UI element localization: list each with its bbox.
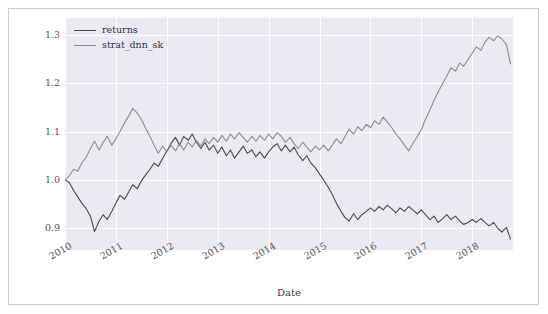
x-axis-ticks: 201020112012201320142015201620172018: [65, 250, 513, 292]
y-tick-label: 0.9: [12, 223, 60, 233]
series-line-strat_dnn_sk: [65, 36, 510, 180]
x-axis-label: Date: [65, 287, 513, 298]
legend-label: returns: [102, 24, 138, 36]
y-tick-label: 1.3: [12, 30, 60, 40]
legend-swatch-icon: [74, 45, 96, 46]
series-line-returns: [65, 134, 510, 239]
legend-label: strat_dnn_sk: [102, 39, 163, 51]
legend-item-returns: returns: [74, 24, 163, 36]
y-tick-label: 1.2: [12, 78, 60, 88]
y-tick-label: 1.1: [12, 127, 60, 137]
figure-canvas: 0.91.01.11.21.3 returnsstrat_dnn_sk 2010…: [0, 0, 548, 314]
y-axis-ticks: 0.91.01.11.21.3: [8, 18, 60, 250]
chart-legend: returnsstrat_dnn_sk: [70, 22, 167, 53]
legend-item-strat_dnn_sk: strat_dnn_sk: [74, 39, 163, 51]
y-tick-label: 1.0: [12, 175, 60, 185]
legend-swatch-icon: [74, 30, 96, 31]
